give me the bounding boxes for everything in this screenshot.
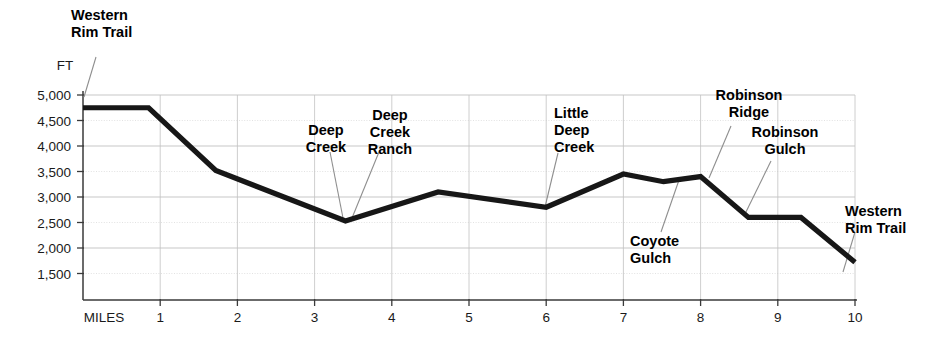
y-axis-tick-label: 5,000: [37, 88, 71, 103]
annotation-label-line: Ridge: [729, 104, 769, 120]
annotation-label-line: Coyote: [630, 233, 679, 249]
x-axis-tick-label: 7: [620, 310, 628, 325]
annotation-label: RobinsonRidge: [716, 87, 783, 120]
annotation-label: CoyoteGulch: [630, 233, 679, 266]
annotation-leader-line: [661, 180, 679, 232]
x-axis-tick-label: 4: [388, 310, 396, 325]
annotation-label: LittleDeepCreek: [554, 105, 595, 155]
annotation-labels: WesternRim TrailDeepCreekDeepCreekRanchL…: [71, 7, 906, 266]
y-axis-tick-label: 4,000: [37, 139, 71, 154]
annotation-leader-line: [84, 57, 96, 97]
annotation-label-line: Deep: [554, 122, 590, 138]
annotation-label-line: Ranch: [368, 141, 412, 157]
y-axis-tick-label: 4,500: [37, 114, 71, 129]
x-axis-tick-label: 6: [542, 310, 550, 325]
x-axis-tick-label: 9: [774, 310, 782, 325]
x-axis-tick-label: 8: [697, 310, 705, 325]
y-axis-tick-labels: 1,5002,0002,5003,0003,5004,0004,5005,000: [37, 88, 71, 282]
x-axis-tick-labels: 12345678910: [156, 310, 862, 325]
annotation-label-line: Western: [71, 7, 128, 23]
annotation-label: DeepCreekRanch: [368, 107, 412, 157]
annotation-label-line: Rim Trail: [845, 220, 906, 236]
annotation-label-line: Western: [845, 203, 902, 219]
annotation-label: DeepCreek: [306, 122, 347, 155]
x-axis-tick-label: 3: [311, 310, 319, 325]
elevation-profile-chart: 1,5002,0002,5003,0003,5004,0004,5005,000…: [0, 0, 929, 341]
annotation-label: WesternRim Trail: [845, 203, 906, 236]
annotation-label: RobinsonGulch: [752, 124, 819, 157]
y-axis-unit-label: FT: [57, 58, 74, 73]
x-axis-tick-label: 10: [847, 310, 862, 325]
axis-ticks: [77, 95, 855, 306]
annotation-label-line: Little: [554, 105, 589, 121]
annotation-leader-line: [744, 161, 771, 216]
annotation-label-line: Robinson: [752, 124, 819, 140]
y-axis-tick-label: 3,500: [37, 165, 71, 180]
annotation-leader-line: [709, 126, 731, 178]
elevation-profile-figure: 1,5002,0002,5003,0003,5004,0004,5005,000…: [0, 0, 929, 341]
annotation-label-line: Creek: [554, 139, 595, 155]
annotation-label-line: Deep: [308, 122, 344, 138]
annotation-label-line: Robinson: [716, 87, 783, 103]
annotation-label-line: Creek: [306, 139, 347, 155]
annotation-label-line: Deep: [372, 107, 408, 123]
annotation-label: WesternRim Trail: [71, 7, 132, 40]
y-axis-tick-label: 3,000: [37, 190, 71, 205]
x-axis-tick-label: 5: [465, 310, 473, 325]
annotation-leader-line: [352, 152, 379, 218]
annotation-label-line: Gulch: [764, 141, 805, 157]
annotation-label-line: Gulch: [630, 250, 671, 266]
y-axis-tick-label: 2,000: [37, 241, 71, 256]
y-axis-tick-label: 2,500: [37, 216, 71, 231]
x-axis-tick-label: 2: [234, 310, 242, 325]
annotation-label-line: Creek: [370, 124, 411, 140]
x-axis-tick-label: 1: [156, 310, 164, 325]
x-axis-name-label: MILES: [84, 310, 125, 325]
annotation-label-line: Rim Trail: [71, 24, 132, 40]
y-axis-tick-label: 1,500: [37, 267, 71, 282]
annotation-leader-line: [330, 152, 343, 218]
annotation-leader-line: [545, 153, 558, 207]
